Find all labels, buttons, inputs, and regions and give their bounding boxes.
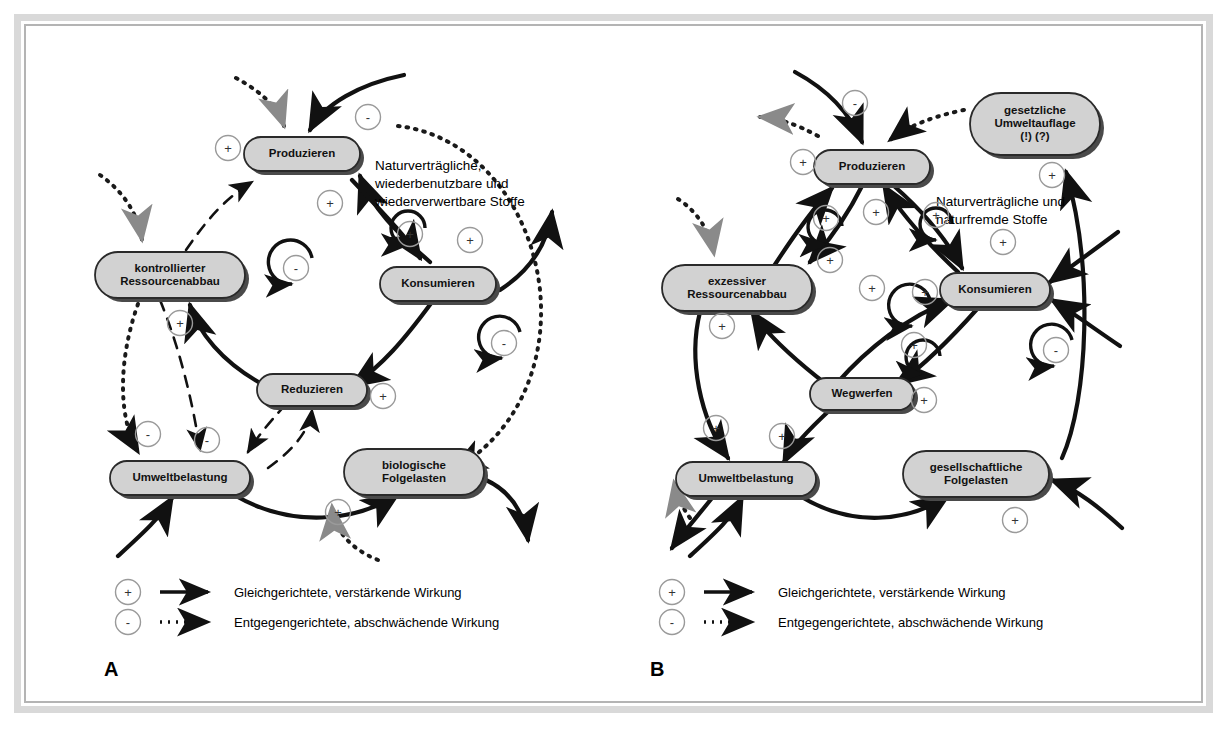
sign-symbol: + — [921, 285, 929, 300]
sign-symbol: + — [932, 208, 940, 223]
node-produzieren-b[interactable]: Produzieren — [814, 150, 934, 188]
sign-symbol: + — [1011, 513, 1019, 528]
sign-plus: + — [326, 500, 351, 525]
sign-symbol: - — [366, 110, 370, 125]
node-label-line: gesetzliche — [1004, 104, 1066, 116]
panel-letter-a: A — [104, 658, 118, 680]
legend-sign-symbol: - — [670, 615, 674, 630]
dash-lower-to-reduzieren — [268, 410, 312, 468]
sign-symbol: + — [910, 338, 918, 353]
annotation-line: wiederverwertbare Stoffe — [374, 194, 525, 209]
sign-symbol: + — [920, 393, 928, 408]
arrow-b-into-umweltbelastung-bottom — [690, 498, 742, 556]
panel-letters: AB — [104, 658, 664, 680]
node-wegwerfen[interactable]: Wegwerfen — [810, 378, 918, 414]
sign-plus: + — [168, 311, 193, 336]
node-kontrollierter-ressourcenabbau[interactable]: kontrollierterRessourcenabbau — [95, 252, 249, 302]
sign-plus: + — [1003, 508, 1028, 533]
node-label-line: Ressourcenabbau — [120, 275, 220, 287]
node-gesellschaftliche-folgelasten[interactable]: gesellschaftlicheFolgelasten — [903, 451, 1053, 501]
dash-ressourcenabbau-to-produzieren — [186, 182, 252, 250]
sign-symbol: - — [205, 433, 209, 448]
sign-symbol: + — [718, 319, 726, 334]
arrow-b-wegwerfen-to-konsumieren — [838, 300, 952, 382]
node-label-line: Konsumieren — [958, 283, 1032, 295]
sign-plus: + — [818, 248, 843, 273]
arrow-konsumieren-to-reduzieren — [352, 302, 432, 386]
sign-minus: - — [1044, 338, 1069, 363]
legend-row: +Gleichgerichtete, verstärkende Wirkung — [116, 580, 462, 605]
sign-symbol: + — [868, 281, 876, 296]
panel-a: ProduzierenkontrollierterRessourcenabbau… — [95, 75, 552, 635]
node-konsumieren[interactable]: Konsumieren — [380, 267, 500, 305]
sign-symbol: - — [146, 427, 150, 442]
panel-a-nodes: ProduzierenkontrollierterRessourcenabbau… — [95, 137, 500, 499]
node-exzessiver-ressourcenabbau[interactable]: exzessiverRessourcenabbau — [662, 265, 816, 315]
sign-plus: + — [902, 333, 927, 358]
sign-plus: + — [216, 136, 241, 161]
node-label-line: biologische — [382, 459, 446, 471]
arrow-right-outer-up — [500, 212, 552, 290]
sign-symbol: + — [712, 421, 720, 436]
sign-minus: - — [284, 256, 309, 281]
node-label-line: Umweltbelastung — [132, 471, 227, 483]
node-label-line: Umweltbelastung — [698, 472, 793, 484]
legend-sign-symbol: + — [668, 585, 676, 600]
arrow-b-wegwerfen-to-ressourcenabbau — [752, 312, 826, 384]
node-label-line: exzessiver — [708, 275, 767, 287]
node-gesetzliche-umweltauflage[interactable]: gesetzlicheUmweltauflage(!) (?) — [970, 93, 1104, 159]
sign-symbol: + — [334, 505, 342, 520]
annotation-line: naturfremde Stoffe — [936, 212, 1048, 227]
legend-label: Gleichgerichtete, verstärkende Wirkung — [778, 585, 1006, 600]
legend-label: Entgegengerichtete, abschwächende Wirkun… — [778, 615, 1043, 630]
sign-plus: + — [913, 280, 938, 305]
arrow-b-produzieren-to-ressourcenabbau — [810, 186, 862, 262]
arrow-b-wegwerfen-to-umweltbelastung — [784, 408, 832, 462]
node-umweltbelastung-b[interactable]: Umweltbelastung — [676, 462, 820, 500]
legend-sign-symbol: - — [126, 615, 130, 630]
arrow-b-into-folgelasten-right — [1052, 480, 1122, 528]
sign-symbol: + — [379, 389, 387, 404]
node-produzieren[interactable]: Produzieren — [244, 137, 364, 175]
sign-symbol: + — [406, 227, 414, 242]
figure-page: ProduzierenkontrollierterRessourcenabbau… — [0, 0, 1231, 739]
sign-symbol: - — [502, 336, 506, 351]
panel-b-nodes: ProduzierengesetzlicheUmweltauflage(!) (… — [662, 93, 1104, 501]
node-label-line: Umweltauflage — [994, 117, 1075, 129]
sign-symbol: + — [826, 253, 834, 268]
panel-b: ProduzierengesetzlicheUmweltauflage(!) (… — [660, 72, 1123, 635]
node-label-line: Folgelasten — [382, 472, 446, 484]
panel-a-legend: +Gleichgerichtete, verstärkende Wirkung-… — [116, 580, 500, 635]
sign-symbol: + — [822, 211, 830, 226]
sign-symbol: + — [799, 155, 807, 170]
sign-symbol: - — [294, 261, 298, 276]
sign-minus: - — [843, 91, 868, 116]
sign-plus: + — [770, 424, 795, 449]
sign-symbol: - — [853, 96, 857, 111]
sign-minus: - — [356, 105, 381, 130]
sign-plus: + — [991, 230, 1016, 255]
dash-reduzieren-to-umweltbelastung — [248, 404, 286, 452]
sign-plus: + — [791, 150, 816, 175]
sign-plus: + — [458, 228, 483, 253]
sign-minus: - — [492, 331, 517, 356]
node-label-line: Konsumieren — [401, 277, 475, 289]
sign-symbol: - — [1054, 343, 1058, 358]
node-umweltbelastung[interactable]: Umweltbelastung — [110, 461, 254, 499]
legend-sign-symbol: + — [124, 585, 132, 600]
panel-a-annotation: Naturverträgliche,wiederbenutzbare undwi… — [374, 158, 525, 209]
arrow-into-umweltbelastung-bottom — [118, 498, 172, 556]
node-biologische-folgelasten[interactable]: biologischeFolgelasten — [344, 449, 488, 499]
node-reduzieren[interactable]: Reduzieren — [257, 374, 371, 410]
node-label-line: kontrollierter — [135, 262, 206, 274]
sign-symbol: + — [466, 233, 474, 248]
dotted-b-umweltauflage-to-produzieren — [890, 110, 964, 140]
node-konsumieren-b[interactable]: Konsumieren — [940, 273, 1054, 311]
loop-minus-center — [268, 240, 312, 284]
sign-symbol: + — [872, 205, 880, 220]
sign-symbol: + — [326, 196, 334, 211]
node-label-line: Produzieren — [839, 160, 905, 172]
sign-minus: - — [136, 422, 161, 447]
sign-symbol: + — [224, 141, 232, 156]
annotation-line: Naturverträgliche, — [375, 158, 482, 173]
